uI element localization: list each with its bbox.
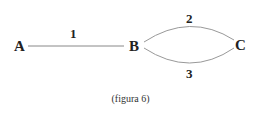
edge-label-2: 2 [186,11,193,26]
node-c: C [235,37,246,53]
figure-caption: (figura 6) [0,93,261,104]
edge-b-c-upper [144,26,234,42]
edge-b-c-lower [144,48,234,63]
edge-label-1: 1 [70,26,77,41]
node-b: B [129,38,139,54]
edge-label-3: 3 [186,66,193,81]
node-a: A [14,38,25,54]
